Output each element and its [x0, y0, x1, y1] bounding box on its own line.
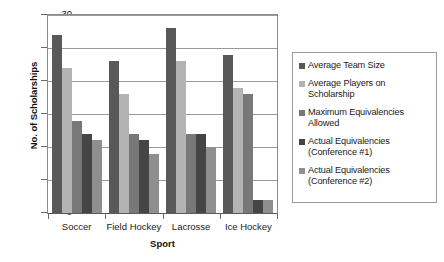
bar — [253, 200, 263, 213]
bar-slot — [253, 15, 263, 213]
bar — [129, 134, 139, 213]
bar-slot — [92, 15, 102, 213]
x-tick-mark — [48, 214, 49, 219]
bar-slot — [233, 15, 243, 213]
legend-item[interactable]: Maximum EquivalenciesAllowed — [299, 107, 432, 130]
x-tick-label: Field Hockey — [105, 221, 162, 232]
x-tick-mark — [163, 214, 164, 219]
bar-slot — [82, 15, 92, 213]
bar — [139, 140, 149, 213]
bar-slot — [206, 15, 216, 213]
bar — [92, 140, 102, 213]
x-tick-mark — [277, 214, 278, 219]
bar — [223, 55, 233, 213]
bar — [263, 200, 273, 213]
x-tick-mark — [220, 214, 221, 219]
bar-slot — [243, 15, 253, 213]
bar-slot — [139, 15, 149, 213]
legend-swatch-icon — [299, 81, 305, 87]
bar — [82, 134, 92, 213]
x-axis-labels: SoccerField HockeyLacrosseIce Hockey — [48, 221, 277, 232]
bar — [109, 61, 119, 213]
legend-swatch-icon — [299, 63, 305, 69]
bar-group — [105, 15, 162, 213]
legend-swatch-icon — [299, 139, 305, 145]
bar — [62, 68, 72, 213]
legend-item[interactable]: Actual Equivalencies(Conference #2) — [299, 165, 432, 188]
bar — [72, 121, 82, 213]
bar — [52, 35, 62, 213]
bar-group — [220, 15, 277, 213]
bar-group — [48, 15, 105, 213]
legend-swatch-icon — [299, 110, 305, 116]
bar — [166, 28, 176, 213]
bar-slot — [176, 15, 186, 213]
x-tick-label: Ice Hockey — [220, 221, 277, 232]
y-axis-title: No. of Scholarships — [28, 26, 39, 186]
bar-groups — [48, 15, 277, 213]
bar-slot — [223, 15, 233, 213]
legend-item-label: Actual Equivalencies(Conference #2) — [308, 165, 390, 188]
chart-legend: Average Team SizeAverage Players onSchol… — [292, 52, 437, 203]
bar-slot — [149, 15, 159, 213]
legend-item[interactable]: Average Players onScholarship — [299, 78, 432, 101]
bar-slot — [72, 15, 82, 213]
bar-chart: No. of Scholarships 302520151050 SoccerF… — [0, 0, 444, 262]
bar — [176, 61, 186, 213]
x-axis-title: Sport — [48, 238, 277, 249]
bar-slot — [109, 15, 119, 213]
legend-item-label: Actual Equivalencies(Conference #1) — [308, 136, 390, 159]
bar-slot — [186, 15, 196, 213]
bar — [196, 134, 206, 213]
bar-slot — [129, 15, 139, 213]
legend-swatch-icon — [299, 168, 305, 174]
legend-item-label: Average Players onScholarship — [308, 78, 385, 101]
bar-slot — [263, 15, 273, 213]
x-tick-mark — [105, 214, 106, 219]
x-tick-label: Soccer — [48, 221, 105, 232]
legend-item-label: Average Team Size — [308, 60, 385, 72]
bar-slot — [62, 15, 72, 213]
bar — [119, 94, 129, 213]
bar-slot — [196, 15, 206, 213]
legend-item[interactable]: Actual Equivalencies(Conference #1) — [299, 136, 432, 159]
x-tick-label: Lacrosse — [163, 221, 220, 232]
legend-item[interactable]: Average Team Size — [299, 60, 432, 72]
legend-item-label: Maximum EquivalenciesAllowed — [308, 107, 404, 130]
bar-slot — [52, 15, 62, 213]
bar — [149, 154, 159, 213]
bar — [233, 88, 243, 213]
bar-group — [163, 15, 220, 213]
bar-slot — [166, 15, 176, 213]
bar — [206, 147, 216, 213]
bar — [243, 94, 253, 213]
bar — [186, 134, 196, 213]
bar-slot — [119, 15, 129, 213]
